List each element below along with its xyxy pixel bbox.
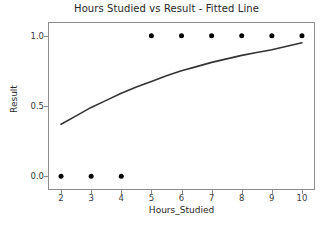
x-tick-mark [182,190,183,194]
data-point [239,33,244,38]
data-point [149,33,154,38]
data-point [299,33,304,38]
x-tick-label: 5 [149,193,154,203]
x-tick-label: 2 [58,193,63,203]
y-tick-label: 0.0 [0,171,44,181]
y-tick-label: 1.0 [0,31,44,41]
data-point [269,33,274,38]
x-tick-mark [121,190,122,194]
x-tick-mark [212,190,213,194]
x-tick-label: 7 [209,193,214,203]
x-tick-label: 10 [297,193,308,203]
data-point [179,33,184,38]
y-tick-label: 0.5 [0,101,44,111]
y-axis-label: Result [9,69,19,129]
x-tick-mark [151,190,152,194]
x-tick-mark [91,190,92,194]
chart-figure: Hours Studied vs Result - Fitted Line Re… [0,0,333,228]
x-tick-mark [272,190,273,194]
x-tick-label: 3 [88,193,93,203]
chart-title: Hours Studied vs Result - Fitted Line [0,3,333,14]
x-tick-label: 6 [179,193,184,203]
plot-area [48,22,315,190]
x-tick-label: 9 [269,193,274,203]
x-tick-mark [61,190,62,194]
data-point [89,174,94,179]
x-tick-label: 8 [239,193,244,203]
data-point [59,174,64,179]
x-axis-label: Hours_Studied [48,205,315,215]
fitted-line-series [61,43,302,125]
x-tick-label: 4 [119,193,124,203]
x-tick-mark [242,190,243,194]
fitted-line [61,43,302,125]
plot-canvas [49,23,314,189]
data-point [209,33,214,38]
x-tick-mark [302,190,303,194]
data-point [119,174,124,179]
